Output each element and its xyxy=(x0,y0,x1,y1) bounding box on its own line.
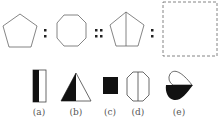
option-e-label: (e) xyxy=(169,107,189,117)
option-c-label: (c) xyxy=(100,107,120,117)
option-c-shape[interactable] xyxy=(103,77,118,94)
option-a-shape[interactable] xyxy=(33,70,46,102)
ratio-colon-2 xyxy=(151,29,154,38)
option-a-label: (a) xyxy=(29,107,49,117)
ratio-double-colon xyxy=(95,29,103,38)
analogy-figure xyxy=(0,0,222,122)
octagon-shape xyxy=(57,15,86,46)
option-d-shape[interactable] xyxy=(127,72,149,101)
ratio-colon-1 xyxy=(44,29,47,38)
option-e-shape[interactable] xyxy=(166,71,193,100)
option-d-label: (d) xyxy=(128,107,148,117)
pentagon-shape xyxy=(3,14,37,47)
option-b-shape[interactable] xyxy=(61,73,91,101)
answer-placeholder-box xyxy=(163,2,217,56)
pentagon-with-line-shape xyxy=(110,12,144,46)
option-b-label: (b) xyxy=(66,107,86,117)
